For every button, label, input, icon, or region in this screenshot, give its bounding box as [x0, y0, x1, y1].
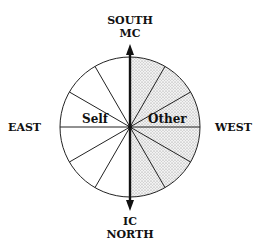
chart-diagram: SOUTH MC IC NORTH EAST WEST Self Other — [0, 0, 262, 249]
ic-north-label: IC NORTH — [100, 215, 160, 241]
self-label: Self — [82, 113, 108, 126]
other-label: Other — [148, 113, 187, 126]
west-label: WEST — [215, 121, 252, 134]
mc-label: MC — [100, 27, 160, 40]
south-label: SOUTH — [100, 14, 160, 27]
ic-label: IC — [100, 215, 160, 228]
arrow-up-icon — [126, 44, 134, 55]
arrow-down-icon — [126, 200, 134, 211]
north-label: NORTH — [100, 228, 160, 241]
south-mc-label: SOUTH MC — [100, 14, 160, 40]
east-label: EAST — [8, 121, 41, 134]
center-point — [128, 125, 132, 129]
